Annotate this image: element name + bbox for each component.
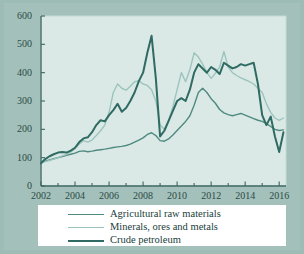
legend-swatch-line	[68, 240, 104, 242]
x-tick-label: 2006	[92, 191, 126, 201]
y-tick-label: 0	[2, 181, 32, 191]
legend-item-label: Crude petroleum	[110, 234, 181, 246]
y-tick-label: 500	[2, 39, 32, 49]
x-tick-label: 2010	[160, 191, 194, 201]
legend-item-agricultural-raw-materials[interactable]: Agricultural raw materials	[38, 209, 286, 221]
legend-item-label: Minerals, ores and metals	[110, 221, 218, 233]
x-tick-label: 2004	[58, 191, 92, 201]
x-tick-label: 2016	[262, 191, 296, 201]
legend-swatch-line	[68, 214, 104, 215]
x-tick-label: 2008	[126, 191, 160, 201]
legend-item-minerals-ores-and-metals[interactable]: Minerals, ores and metals	[38, 222, 286, 234]
y-tick-label: 300	[2, 96, 32, 106]
x-tick-label: 2014	[228, 191, 262, 201]
x-tick-label: 2012	[194, 191, 228, 201]
legend-swatch-line	[68, 227, 104, 228]
x-tick-label: 2002	[24, 191, 58, 201]
chart-figure: 0100200300400500600200220042006200820102…	[0, 0, 304, 254]
chart-legend: Agricultural raw materials Minerals, ore…	[38, 205, 286, 246]
y-tick-label: 600	[2, 11, 32, 21]
legend-item-crude-petroleum[interactable]: Crude petroleum	[38, 235, 286, 247]
y-tick-label: 400	[2, 68, 32, 78]
y-tick-label: 200	[2, 124, 32, 134]
legend-item-label: Agricultural raw materials	[110, 208, 221, 220]
y-tick-label: 100	[2, 153, 32, 163]
